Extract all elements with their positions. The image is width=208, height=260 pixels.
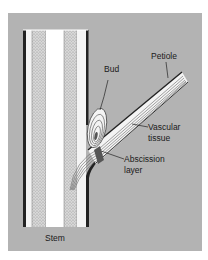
label-vascular-tissue-2: tissue	[148, 133, 170, 143]
label-bud: Bud	[104, 64, 119, 74]
label-vascular-tissue-1: Vascular	[148, 122, 180, 132]
label-petiole: Petiole	[151, 51, 177, 61]
label-stem: Stem	[45, 233, 65, 243]
label-abscission-1: Abscission	[124, 154, 165, 164]
label-abscission-2: layer	[124, 165, 142, 175]
